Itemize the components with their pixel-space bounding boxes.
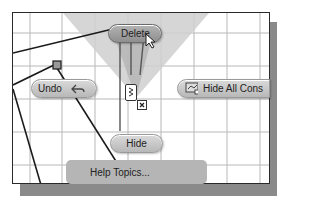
hide-label: Hide: [126, 138, 147, 149]
undo-label: Undo: [32, 83, 68, 94]
undo-button[interactable]: Undo: [31, 79, 97, 98]
mouse-pointer-icon: [145, 33, 157, 49]
hide-all-constraints-icon: [185, 82, 198, 95]
sketch-point: [53, 61, 61, 69]
undo-arrow-icon: [70, 83, 86, 95]
hide-all-constraints-label: Hide All Cons: [198, 83, 269, 94]
constraint-glyph-icon: [125, 84, 137, 101]
hide-button[interactable]: Hide: [110, 134, 163, 153]
help-topics-label: Help Topics...: [90, 167, 150, 178]
help-topics-menu-item[interactable]: Help Topics...: [66, 160, 207, 184]
close-small-icon[interactable]: [137, 100, 147, 110]
hide-all-constraints-button[interactable]: Hide All Cons: [177, 79, 270, 98]
